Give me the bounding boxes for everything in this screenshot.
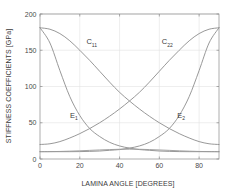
curve-label-e2: E2: [177, 111, 185, 121]
x-axis-tick-labels: 020406080: [38, 162, 203, 169]
x-axis-title: LAMINA ANGLE [DEGREES]: [81, 180, 174, 188]
curve-c11: [40, 28, 219, 145]
x-tick-label: 60: [155, 162, 163, 169]
x-tick-label: 40: [116, 162, 124, 169]
y-tick-label: 150: [25, 47, 37, 54]
y-tick-label: 0: [33, 156, 37, 163]
curve-c22: [40, 28, 219, 145]
curve-label-c11: C11: [86, 37, 97, 47]
y-tick-label: 100: [25, 83, 37, 90]
y-axis-tick-labels: 050100150200: [25, 11, 37, 163]
curve-label-c22: C22: [162, 37, 173, 47]
y-axis-title: STIFFNESS COEFFICIENTS [GPa]: [5, 29, 13, 143]
x-tick-label: 20: [76, 162, 84, 169]
x-tick-label: 80: [195, 162, 203, 169]
curve-label-e1: E1: [70, 111, 78, 121]
y-tick-label: 50: [29, 119, 37, 126]
x-tick-label: 0: [38, 162, 42, 169]
stiffness-coefficients-line-chart: 050100150200 020406080 C11C22E1E2 LAMINA…: [0, 0, 227, 192]
data-curves: [40, 28, 219, 152]
y-tick-label: 200: [25, 11, 37, 18]
curve-baseline: [40, 149, 219, 151]
grid-lines: [40, 14, 219, 159]
chart-figure: 050100150200 020406080 C11C22E1E2 LAMINA…: [0, 0, 227, 192]
